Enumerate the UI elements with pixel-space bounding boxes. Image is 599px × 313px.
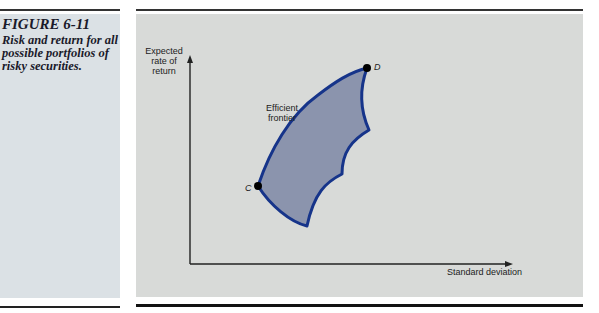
y-axis-label: Expected rate of return — [140, 46, 188, 76]
point-c-label: C — [245, 183, 252, 193]
point-d-label: D — [374, 62, 381, 72]
efficient-frontier-label: Efficient frontier — [252, 103, 312, 123]
feasible-region — [258, 68, 369, 226]
point-c-marker — [254, 182, 262, 190]
x-axis-label: Standard deviation — [412, 267, 522, 277]
point-d-marker — [363, 64, 371, 72]
